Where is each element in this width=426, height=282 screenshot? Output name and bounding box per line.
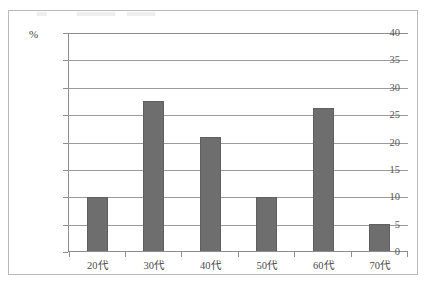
y-tick-mark-20 — [63, 143, 68, 144]
x-tick-mark — [407, 252, 408, 257]
y-tick-mark-0 — [63, 252, 68, 253]
bar-20代[interactable] — [87, 197, 108, 252]
bar-50代[interactable] — [256, 197, 277, 252]
x-axis-label-40dai: 40代 — [182, 261, 239, 272]
bar-chart-figure: % 40 35 30 25 20 15 10 5 0 — [8, 10, 418, 275]
x-axis-label-50dai: 50代 — [239, 261, 296, 272]
bar-30代[interactable] — [143, 101, 164, 251]
y-tick-mark-15 — [63, 170, 68, 171]
bar-40代[interactable] — [200, 137, 221, 251]
y-tick-mark-5 — [63, 225, 68, 226]
x-axis-label-30dai: 30代 — [126, 261, 183, 272]
y-tick-mark-35 — [63, 60, 68, 61]
y-tick-mark-25 — [63, 115, 68, 116]
y-tick-mark-30 — [63, 88, 68, 89]
y-tick-mark-40 — [63, 33, 68, 34]
x-tick-slot — [295, 252, 352, 257]
bar-slot — [182, 33, 239, 251]
bar-slot — [126, 33, 183, 251]
bar-60代[interactable] — [313, 108, 334, 251]
x-axis-label-60dai: 60代 — [295, 261, 352, 272]
y-axis-unit-label: % — [29, 29, 38, 40]
bar-slot — [239, 33, 296, 251]
x-tick-slot — [126, 252, 183, 257]
x-tick-mark — [69, 252, 70, 257]
bar-slot — [352, 33, 409, 251]
bar-slot — [295, 33, 352, 251]
x-axis-label-70dai: 70代 — [352, 261, 409, 272]
x-tick-slot — [352, 252, 409, 257]
x-axis-ticks — [69, 252, 408, 257]
y-tick-mark-10 — [63, 197, 68, 198]
x-tick-slot — [239, 252, 296, 257]
x-axis-label-20dai: 20代 — [69, 261, 126, 272]
x-tick-slot — [182, 252, 239, 257]
bars-layer — [69, 33, 408, 251]
plot-area: 40 35 30 25 20 15 10 5 0 — [68, 33, 408, 252]
x-axis-labels: 20代 30代 40代 50代 60代 70代 — [69, 261, 408, 272]
header-text-artifact — [31, 12, 181, 16]
x-tick-slot — [69, 252, 126, 257]
bar-slot — [69, 33, 126, 251]
bar-70代[interactable] — [369, 224, 390, 251]
